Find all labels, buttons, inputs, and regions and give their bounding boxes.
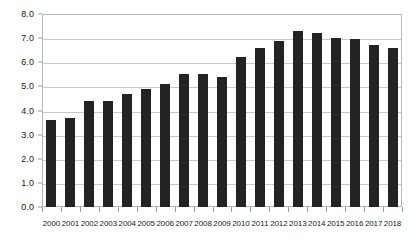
bar-slot	[80, 14, 99, 207]
x-tick-label: 2014	[308, 219, 325, 228]
bar-slot	[156, 14, 175, 207]
x-tick-mark	[175, 207, 176, 212]
x-tick-label: 2003	[100, 219, 117, 228]
bar-slot	[383, 14, 402, 207]
bar-slot	[118, 14, 137, 207]
x-tick-label: 2001	[62, 219, 79, 228]
x-tick-mark	[61, 207, 62, 212]
bar-slot	[288, 14, 307, 207]
x-tick-mark	[269, 207, 270, 212]
bar-slot	[364, 14, 383, 207]
bar[interactable]	[122, 94, 132, 207]
bar-slot	[213, 14, 232, 207]
bar[interactable]	[103, 101, 113, 207]
x-tick-mark	[156, 207, 157, 212]
x-tick-label: 2010	[232, 219, 249, 228]
bar-slot	[326, 14, 345, 207]
x-tick-mark	[213, 207, 214, 212]
bar[interactable]	[293, 31, 303, 207]
bar-slot	[42, 14, 61, 207]
y-tick-label: 4.0	[21, 106, 34, 116]
x-tick-label: 2015	[327, 219, 344, 228]
x-tick-mark	[402, 207, 403, 212]
bar[interactable]	[350, 39, 360, 207]
y-tick-label: 5.0	[21, 81, 34, 91]
bar[interactable]	[388, 48, 398, 207]
bar-chart-figure: 0.01.02.03.04.05.06.07.08.0 200020012002…	[0, 0, 416, 242]
x-tick-label: 2009	[213, 219, 230, 228]
y-tick-label: 6.0	[21, 57, 34, 67]
y-tick-label: 3.0	[21, 130, 34, 140]
bar-slot	[61, 14, 80, 207]
bar[interactable]	[65, 118, 75, 207]
x-tick-mark	[345, 207, 346, 212]
y-tick-label: 7.0	[21, 33, 34, 43]
x-tick-label: 2006	[156, 219, 173, 228]
bar[interactable]	[46, 120, 56, 207]
x-tick-mark	[99, 207, 100, 212]
bar-slot	[137, 14, 156, 207]
bar[interactable]	[255, 48, 265, 207]
bar[interactable]	[84, 101, 94, 207]
x-axis: 2000200120022003200420052006200720082009…	[42, 207, 402, 242]
x-tick-mark	[194, 207, 195, 212]
bar[interactable]	[274, 41, 284, 207]
x-tick-label: 2013	[289, 219, 306, 228]
x-tick-mark	[326, 207, 327, 212]
x-tick-mark	[383, 207, 384, 212]
bar[interactable]	[198, 74, 208, 207]
x-tick-label: 2017	[365, 219, 382, 228]
x-tick-label: 2012	[270, 219, 287, 228]
bar[interactable]	[331, 38, 341, 207]
x-tick-label: 2002	[81, 219, 98, 228]
x-tick-mark	[118, 207, 119, 212]
x-tick-mark	[288, 207, 289, 212]
bar-slot	[194, 14, 213, 207]
bar-slot	[345, 14, 364, 207]
bars-container	[42, 14, 402, 207]
bar-slot	[99, 14, 118, 207]
x-tick-label: 2007	[175, 219, 192, 228]
bar[interactable]	[160, 84, 170, 207]
bar-slot	[231, 14, 250, 207]
x-tick-label: 2008	[194, 219, 211, 228]
bar[interactable]	[312, 33, 322, 207]
x-tick-label: 2018	[384, 219, 401, 228]
y-tick-label: 2.0	[21, 154, 34, 164]
bar-slot	[250, 14, 269, 207]
bar-slot	[307, 14, 326, 207]
y-tick-label: 8.0	[21, 9, 34, 19]
bar[interactable]	[369, 45, 379, 207]
x-tick-mark	[250, 207, 251, 212]
x-tick-mark	[137, 207, 138, 212]
x-tick-label: 2004	[119, 219, 136, 228]
x-tick-mark	[42, 207, 43, 212]
x-tick-mark	[231, 207, 232, 212]
bar[interactable]	[141, 89, 151, 207]
bar[interactable]	[236, 57, 246, 207]
y-tick-label: 0.0	[21, 202, 34, 212]
x-tick-mark	[307, 207, 308, 212]
bar[interactable]	[179, 74, 189, 207]
x-tick-mark	[364, 207, 365, 212]
bar[interactable]	[217, 77, 227, 207]
x-tick-mark	[80, 207, 81, 212]
x-tick-label: 2000	[43, 219, 60, 228]
x-tick-label: 2005	[138, 219, 155, 228]
bar-slot	[269, 14, 288, 207]
x-tick-label: 2016	[346, 219, 363, 228]
x-tick-label: 2011	[251, 219, 268, 228]
y-axis: 0.01.02.03.04.05.06.07.08.0	[0, 0, 42, 242]
y-tick-label: 1.0	[21, 178, 34, 188]
bar-slot	[175, 14, 194, 207]
